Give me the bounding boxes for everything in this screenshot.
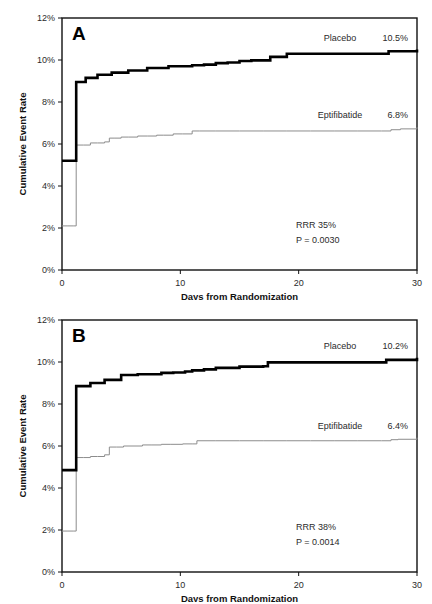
plot-frame	[62, 320, 417, 572]
panel-letter: A	[72, 23, 86, 44]
y-tick-label: 2%	[42, 525, 55, 535]
eptifibatide-endpoint-value: 6.4%	[387, 421, 408, 431]
y-axis-title: Cumulative Event Rate	[17, 93, 28, 196]
y-tick-label: 2%	[42, 223, 55, 233]
placebo-series-label: Placebo	[324, 33, 357, 43]
x-tick-label: 30	[412, 580, 422, 590]
x-tick-label: 10	[175, 580, 185, 590]
y-tick-label: 8%	[42, 399, 55, 409]
y-tick-label: 8%	[42, 97, 55, 107]
x-tick-label: 30	[412, 278, 422, 288]
chart-a: 0%2%4%6%8%10%12%0102030Days from Randomi…	[0, 0, 432, 300]
plot-frame	[62, 18, 417, 270]
rrr-annotation: RRR 38%	[296, 522, 336, 532]
y-tick-label: 4%	[42, 181, 55, 191]
y-tick-label: 12%	[37, 13, 55, 23]
rrr-annotation: RRR 35%	[296, 220, 336, 230]
x-tick-label: 20	[294, 580, 304, 590]
placebo-endpoint-value: 10.2%	[382, 341, 408, 351]
eptifibatide-series-label: Eptifibatide	[318, 110, 363, 120]
y-tick-label: 10%	[37, 357, 55, 367]
curve-placebo	[62, 358, 417, 470]
y-tick-label: 0%	[42, 567, 55, 577]
x-tick-label: 0	[59, 580, 64, 590]
y-tick-label: 12%	[37, 315, 55, 325]
curve-placebo	[62, 50, 417, 161]
chart-b: 0%2%4%6%8%10%12%0102030Days from Randomi…	[0, 302, 432, 602]
y-axis-title: Cumulative Event Rate	[17, 395, 28, 498]
y-tick-label: 4%	[42, 483, 55, 493]
x-tick-label: 0	[59, 278, 64, 288]
figure-caption-partial	[0, 596, 432, 604]
panel-letter: B	[72, 325, 86, 346]
y-tick-label: 6%	[42, 139, 55, 149]
panel-b: 0%2%4%6%8%10%12%0102030Days from Randomi…	[0, 302, 432, 602]
x-axis-title: Days from Randomization	[181, 291, 298, 300]
placebo-series-label: Placebo	[324, 341, 357, 351]
curve-eptifibatide	[62, 127, 417, 226]
figure-caption-strip	[0, 596, 432, 604]
eptifibatide-endpoint-value: 6.8%	[387, 110, 408, 120]
curve-eptifibatide	[62, 438, 417, 531]
y-tick-label: 6%	[42, 441, 55, 451]
y-tick-label: 0%	[42, 265, 55, 275]
eptifibatide-series-label: Eptifibatide	[318, 421, 363, 431]
x-tick-label: 10	[175, 278, 185, 288]
x-tick-label: 20	[294, 278, 304, 288]
panel-a: 0%2%4%6%8%10%12%0102030Days from Randomi…	[0, 0, 432, 300]
pvalue-annotation: P = 0.0014	[296, 537, 340, 547]
y-tick-label: 10%	[37, 55, 55, 65]
pvalue-annotation: P = 0.0030	[296, 235, 340, 245]
placebo-endpoint-value: 10.5%	[382, 33, 408, 43]
